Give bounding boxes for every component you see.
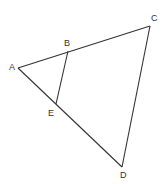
geometry-diagram: ABCDE: [0, 0, 166, 184]
segment-CD: [122, 26, 150, 167]
point-label-C: C: [151, 13, 158, 23]
triangle-figure: ABCDE: [0, 0, 166, 184]
point-label-D: D: [120, 170, 127, 180]
segment-BE: [56, 51, 68, 104]
segment-AC: [18, 26, 150, 68]
point-label-E: E: [48, 108, 54, 118]
segment-DA: [18, 68, 122, 167]
point-label-A: A: [9, 62, 15, 72]
point-label-B: B: [64, 38, 70, 48]
